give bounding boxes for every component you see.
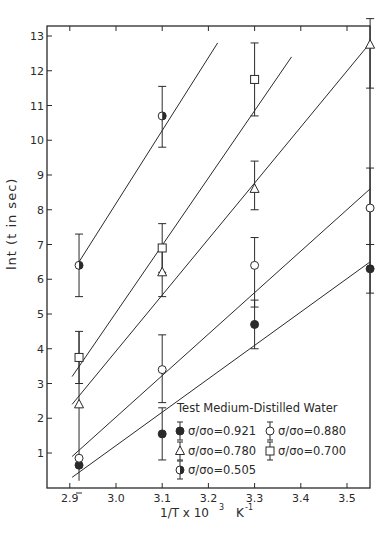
legend-title: Test Medium-Distilled Water — [176, 401, 338, 415]
x-tick-label: 2.9 — [61, 492, 79, 505]
y-tick-label: 6 — [37, 273, 44, 286]
y-tick-label: 9 — [37, 169, 44, 182]
filled-circle-marker — [176, 427, 184, 435]
x-tick-label: 3.5 — [338, 492, 356, 505]
filled-circle-marker — [366, 265, 374, 273]
legend-label: σ/σo=0.700 — [278, 444, 346, 458]
y-tick-label: 1 — [37, 447, 44, 460]
filled-circle-marker — [251, 320, 259, 328]
square-marker — [75, 353, 83, 361]
fit-line — [72, 57, 291, 377]
error-bars — [75, 19, 374, 493]
x-axis-label-main: 1/T x 10 — [160, 506, 209, 520]
legend-label: σ/σo=0.780 — [188, 444, 256, 458]
open-circle-marker — [266, 427, 274, 435]
legend-item: σ/σo=0.921 — [176, 422, 256, 440]
y-axis-label: lnt (t in sec) — [4, 178, 19, 270]
open-circle-marker — [251, 261, 259, 269]
open-circle-marker — [158, 366, 166, 374]
fit-line — [79, 43, 218, 262]
y-tick-label: 2 — [37, 412, 44, 425]
legend-item: σ/σo=0.700 — [266, 442, 346, 460]
filled-circle-marker — [158, 430, 166, 438]
triangle-marker — [158, 267, 167, 276]
legend: Test Medium-Distilled Waterσ/σo=0.921σ/σ… — [176, 401, 347, 479]
open-circle-marker — [75, 454, 83, 462]
triangle-marker — [250, 184, 259, 193]
x-axis-label-unit-sup: -1 — [245, 503, 253, 512]
legend-label: σ/σo=0.505 — [188, 463, 256, 477]
triangle-marker — [366, 40, 375, 49]
open-circle-marker — [366, 204, 374, 212]
square-marker — [266, 447, 274, 455]
fit-line — [72, 189, 370, 457]
y-tick-label: 11 — [30, 100, 44, 113]
y-tick-label: 7 — [37, 239, 44, 252]
x-tick-label: 3.2 — [200, 492, 218, 505]
legend-label: σ/σo=0.921 — [188, 424, 256, 438]
x-axis-label-unit: K — [236, 506, 245, 520]
legend-item: σ/σo=0.880 — [266, 422, 346, 440]
y-tick-label: 5 — [37, 308, 44, 321]
x-axis-label: 1/T x 103K-1 — [160, 503, 253, 520]
fit-line — [72, 43, 370, 404]
x-axis-label-sup: 3 — [219, 503, 224, 512]
y-tick-label: 10 — [30, 134, 44, 147]
x-tick-label: 3.0 — [107, 492, 125, 505]
y-tick-label: 8 — [37, 204, 44, 217]
y-tick-label: 3 — [37, 378, 44, 391]
y-tick-label: 12 — [30, 65, 44, 78]
axes-box — [47, 26, 370, 488]
chart-canvas: 2.93.03.13.23.33.43.512345678910111213 T… — [0, 0, 383, 533]
y-tick-label: 13 — [30, 30, 44, 43]
x-tick-label: 3.4 — [292, 492, 310, 505]
square-marker — [251, 75, 259, 83]
triangle-marker — [75, 399, 84, 408]
plot-frame — [47, 26, 370, 488]
legend-item: σ/σo=0.505 — [176, 461, 256, 479]
legend-label: σ/σo=0.880 — [278, 424, 346, 438]
legend-item: σ/σo=0.780 — [176, 442, 257, 460]
y-tick-label: 4 — [37, 343, 44, 356]
x-tick-label: 3.1 — [153, 492, 171, 505]
square-marker — [158, 244, 166, 252]
triangle-marker — [176, 446, 185, 455]
